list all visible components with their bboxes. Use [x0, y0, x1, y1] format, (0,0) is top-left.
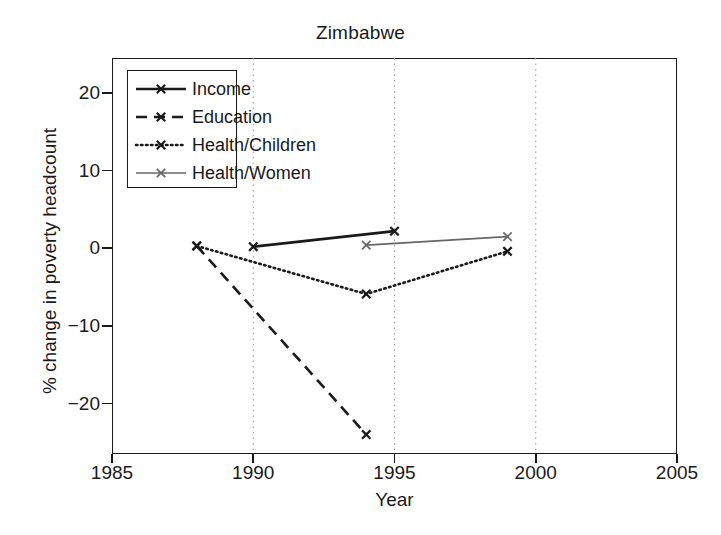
x-axis-title: Year	[112, 489, 677, 511]
legend-item-education[interactable]: Education	[134, 103, 272, 131]
series-health-children	[193, 242, 512, 299]
x-tick-mark	[394, 454, 396, 463]
y-tick-mark	[102, 247, 112, 249]
series-health-women	[362, 232, 512, 249]
legend-item-label: Education	[192, 107, 272, 128]
y-tick-mark	[102, 403, 112, 405]
legend-line-sample	[134, 166, 188, 180]
x-tick-mark	[535, 454, 537, 463]
y-tick-label: −20	[40, 393, 100, 415]
y-tick-mark	[102, 92, 112, 94]
legend-item-label: Health/Women	[192, 163, 311, 184]
y-tick-label: 0	[40, 237, 100, 259]
x-tick-label: 1985	[67, 462, 157, 484]
legend-line-sample	[134, 110, 188, 124]
legend-line-sample	[134, 138, 188, 152]
x-tick-mark	[676, 454, 678, 463]
y-tick-label: −10	[40, 315, 100, 337]
page-title: Zimbabwe	[0, 22, 721, 44]
legend-item-label: Income	[192, 79, 251, 100]
x-tick-label: 1995	[350, 462, 440, 484]
y-axis-title-container: % change in poverty headcount	[0, 0, 30, 535]
series-group	[193, 227, 512, 439]
series-income	[249, 227, 399, 251]
y-tick-label: 10	[40, 160, 100, 182]
legend[interactable]: IncomeEducationHealth/ChildrenHealth/Wom…	[127, 70, 237, 188]
x-tick-label: 1990	[208, 462, 298, 484]
series-line	[197, 246, 508, 294]
x-tick-mark	[111, 454, 113, 463]
x-tick-label: 2005	[632, 462, 721, 484]
y-tick-mark	[102, 325, 112, 327]
series-line	[197, 246, 367, 435]
chart-page: Zimbabwe % change in poverty headcount 2…	[0, 0, 721, 535]
series-education	[193, 242, 371, 439]
x-tick-mark	[252, 454, 254, 463]
legend-item-income[interactable]: Income	[134, 75, 251, 103]
legend-item-label: Health/Children	[192, 135, 316, 156]
y-tick-label: 20	[40, 82, 100, 104]
x-tick-label: 2000	[491, 462, 581, 484]
legend-item-health-women[interactable]: Health/Women	[134, 159, 311, 187]
legend-item-health-children[interactable]: Health/Children	[134, 131, 316, 159]
data-point-marker	[193, 242, 201, 250]
legend-line-sample	[134, 82, 188, 96]
y-tick-mark	[102, 170, 112, 172]
series-line	[366, 237, 507, 246]
y-tick-label-group: 20100−10−20	[34, 0, 100, 535]
data-point-marker	[362, 430, 370, 438]
